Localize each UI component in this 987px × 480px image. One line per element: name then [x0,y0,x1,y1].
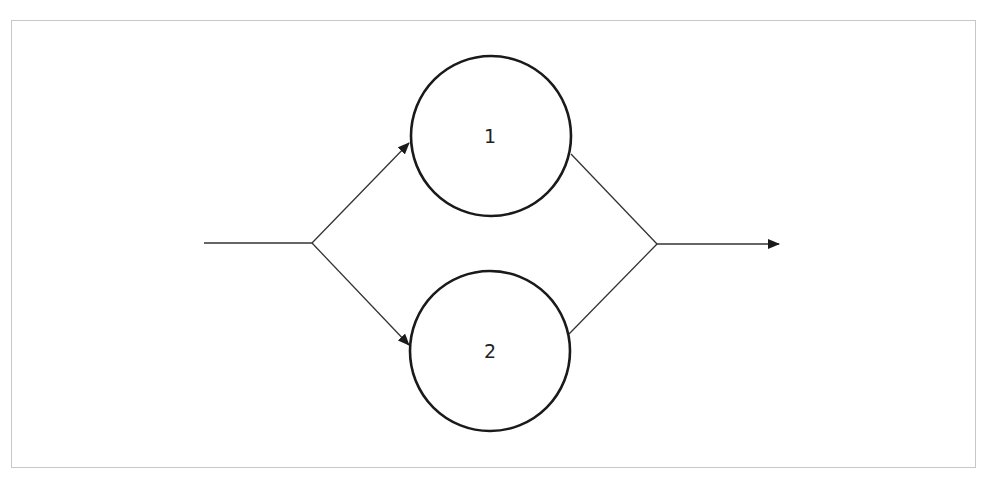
parallel-system-diagram: 1 2 [0,0,987,480]
node-1: 1 [411,56,571,216]
split-to-node-2-arrow [312,243,409,345]
node-2: 2 [410,271,570,431]
node-2-to-join-line [569,244,657,334]
node-1-label: 1 [484,125,496,147]
node-1-to-join-line [571,154,657,244]
split-to-node-1-arrow [312,143,409,243]
node-2-label: 2 [484,340,496,362]
